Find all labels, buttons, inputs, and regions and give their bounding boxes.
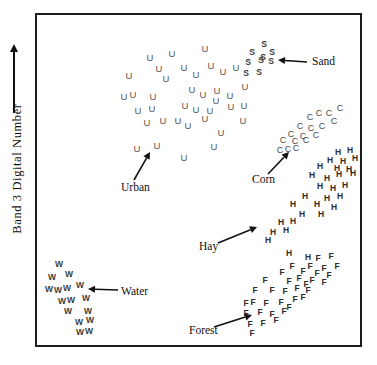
data-point-water: W xyxy=(45,285,53,294)
data-point-corn: C xyxy=(316,109,323,118)
data-point-urban: U xyxy=(214,86,221,95)
data-point-urban: U xyxy=(169,49,176,58)
data-point-urban: U xyxy=(160,116,167,125)
data-point-urban: U xyxy=(156,64,163,73)
data-point-corn: C xyxy=(337,104,344,113)
data-point-water: W xyxy=(63,284,71,293)
data-point-water: W xyxy=(54,286,62,295)
data-point-forest: F xyxy=(286,277,291,286)
data-point-water: W xyxy=(86,316,94,325)
data-point-urban: U xyxy=(241,101,248,110)
data-point-forest: F xyxy=(269,286,274,295)
data-point-forest: F xyxy=(262,276,267,285)
data-point-forest: F xyxy=(307,262,312,271)
data-point-urban: U xyxy=(227,91,234,100)
data-point-forest: F xyxy=(279,268,284,277)
data-point-urban: U xyxy=(213,96,220,105)
data-point-corn: C xyxy=(303,136,310,145)
annotation-arrow-sand xyxy=(266,48,319,74)
data-point-sand: S xyxy=(260,53,266,62)
data-point-urban: U xyxy=(202,44,209,53)
data-point-hay: H xyxy=(290,217,296,226)
data-point-water: W xyxy=(76,328,84,337)
data-point-urban: U xyxy=(240,116,247,125)
data-point-urban: U xyxy=(211,142,218,151)
data-point-urban: U xyxy=(181,63,188,72)
data-point-hay: H xyxy=(352,154,358,163)
data-point-hay: H xyxy=(317,162,323,171)
data-point-urban: U xyxy=(242,82,249,91)
data-point-urban: U xyxy=(135,106,142,115)
data-point-forest: F xyxy=(289,262,294,271)
data-point-urban: U xyxy=(181,153,188,162)
data-point-urban: U xyxy=(185,121,192,130)
data-point-forest: F xyxy=(328,252,333,261)
annotation-arrow-corn xyxy=(256,140,301,186)
data-point-forest: F xyxy=(303,280,308,289)
data-point-hay: H xyxy=(342,181,348,190)
data-point-urban: U xyxy=(228,102,235,111)
data-point-water: W xyxy=(48,273,56,282)
data-point-water: W xyxy=(64,307,72,316)
data-point-hay: H xyxy=(286,249,292,258)
data-point-urban: U xyxy=(150,92,157,101)
data-point-hay: H xyxy=(314,200,320,209)
annotation-arrow-water xyxy=(76,277,130,302)
data-point-urban: U xyxy=(193,105,200,114)
data-point-hay: H xyxy=(299,210,305,219)
data-point-water: W xyxy=(58,297,66,306)
annotation-arrow-forest xyxy=(202,303,264,339)
data-point-urban: U xyxy=(208,61,215,70)
data-point-forest: F xyxy=(282,287,287,296)
data-point-sand: S xyxy=(245,58,251,67)
data-point-urban: U xyxy=(200,90,207,99)
data-point-corn: C xyxy=(313,131,320,140)
annotation-arrow-urban xyxy=(122,140,162,192)
data-point-urban: U xyxy=(189,85,196,94)
data-point-urban: U xyxy=(218,128,225,137)
data-point-urban: U xyxy=(149,104,156,113)
data-point-forest: F xyxy=(294,284,299,293)
data-point-sand: S xyxy=(256,68,262,77)
data-point-forest: F xyxy=(263,299,268,308)
data-point-forest: F xyxy=(321,278,326,287)
data-point-urban: U xyxy=(193,70,200,79)
data-point-forest: F xyxy=(309,276,314,285)
data-point-hay: H xyxy=(327,156,333,165)
data-point-hay: H xyxy=(283,226,289,235)
annotation-arrow-hay xyxy=(206,215,269,255)
data-point-urban: U xyxy=(233,63,240,72)
data-point-corn: C xyxy=(331,117,338,126)
data-point-hay: H xyxy=(290,200,296,209)
data-point-forest: F xyxy=(252,286,257,295)
data-point-sand: S xyxy=(249,48,255,57)
data-point-hay: H xyxy=(302,192,308,201)
data-point-urban: U xyxy=(163,74,170,83)
data-point-forest: F xyxy=(292,295,297,304)
data-point-hay: H xyxy=(309,171,315,180)
data-point-water: W xyxy=(75,318,83,327)
data-point-urban: U xyxy=(126,71,133,80)
data-point-urban: U xyxy=(144,118,151,127)
data-point-hay: H xyxy=(336,170,342,179)
data-point-hay: H xyxy=(330,184,336,193)
data-point-hay: H xyxy=(324,194,330,203)
data-point-hay: H xyxy=(337,192,343,201)
data-point-forest: F xyxy=(286,303,291,312)
data-point-water: W xyxy=(67,296,75,305)
data-point-urban: U xyxy=(130,90,137,99)
data-point-forest: F xyxy=(315,254,320,263)
data-point-water: W xyxy=(65,270,73,279)
data-point-hay: H xyxy=(324,174,330,183)
data-point-hay: H xyxy=(318,210,324,219)
data-point-water: W xyxy=(55,260,63,269)
data-point-sand: S xyxy=(243,69,249,78)
data-point-urban: U xyxy=(202,114,209,123)
data-point-forest: F xyxy=(296,274,301,283)
data-point-forest: F xyxy=(326,271,331,280)
data-point-forest: F xyxy=(300,293,305,302)
data-point-hay: H xyxy=(331,203,337,212)
data-point-urban: U xyxy=(220,67,227,76)
y-axis: Band 3 Digital Number xyxy=(0,13,34,347)
data-point-urban: U xyxy=(175,116,182,125)
